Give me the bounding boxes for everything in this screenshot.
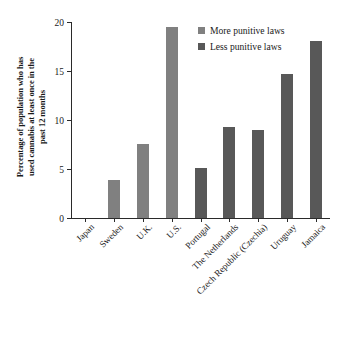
legend-label: More punitive laws — [210, 25, 285, 36]
y-axis-tick-label: 0 — [59, 214, 64, 224]
legend-label: Less punitive laws — [210, 41, 281, 52]
y-axis-title-line-3: past 12 months — [37, 57, 48, 177]
y-axis-tick-label: 15 — [55, 67, 65, 77]
y-axis-tick-label: 20 — [55, 18, 65, 28]
bar — [108, 180, 120, 218]
y-axis-tick-label: 5 — [59, 165, 64, 175]
bar — [195, 168, 207, 218]
x-axis-tick-labels: JapanSwedenU.K.U.S.PortugalThe Netherlan… — [71, 218, 343, 344]
bar — [223, 127, 235, 218]
legend-item: Less punitive laws — [198, 40, 328, 53]
y-axis-tick-label: 10 — [55, 116, 65, 126]
bar-chart-figure: Percentage of population who has used ca… — [0, 0, 343, 344]
bar — [166, 27, 178, 218]
legend-swatch-icon — [198, 43, 205, 50]
x-axis-tick-label: Sweden — [98, 222, 125, 249]
x-axis-tick-label: Uruguay — [268, 222, 298, 252]
x-axis-tick-label: U.S. — [164, 222, 182, 240]
bar — [137, 144, 149, 218]
y-axis-title-line-1: Percentage of population who has — [15, 57, 26, 177]
y-axis-title: Percentage of population who has used ca… — [18, 14, 44, 220]
legend-item: More punitive laws — [198, 24, 328, 37]
x-axis-tick-label: U.K. — [134, 222, 154, 242]
x-axis-tick-label: Jamaica — [299, 222, 327, 250]
bar — [252, 130, 264, 218]
legend-swatch-icon — [198, 27, 205, 34]
y-axis-title-line-2: used cannabis at least once in the — [26, 57, 37, 177]
chart-legend: More punitive lawsLess punitive laws — [198, 24, 328, 56]
bar — [310, 41, 322, 218]
bar — [281, 74, 293, 218]
x-axis-tick-label: Japan — [75, 222, 97, 244]
